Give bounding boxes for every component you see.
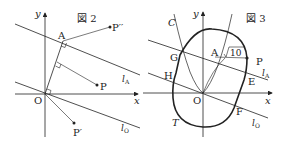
point-P [245, 56, 248, 59]
segment-AP2 [63, 27, 110, 41]
x-axis-label: x [134, 95, 140, 106]
label-O: O [34, 95, 42, 106]
label-C: C [168, 17, 176, 28]
x-axis-label: x [265, 95, 271, 106]
label-P: P [100, 81, 107, 92]
label-O: O [193, 95, 201, 106]
line-lA-label: lA [262, 68, 270, 79]
right-angle-mid [56, 64, 62, 68]
y-axis-label: y [192, 8, 199, 19]
point-P1 [73, 122, 76, 125]
svg-text:10: 10 [230, 48, 242, 58]
y-axis-label: y [34, 8, 41, 19]
label-T: T [172, 117, 180, 128]
label-G: G [170, 52, 178, 63]
label-H: H [164, 70, 173, 81]
line-lO-label: lO [252, 118, 260, 129]
label-F: F [236, 106, 243, 117]
segment-OA [45, 41, 63, 94]
figure-3: x y 図 3 lA lO 10 C T G H A P E F O [143, 8, 272, 137]
line-lA-label: lA [122, 74, 130, 85]
figure-2: x y 図 2 lA lO A P′′ P P′ O [15, 8, 140, 138]
label-P2: P′′ [112, 22, 124, 33]
figure-2-title: 図 2 [77, 13, 97, 24]
point-P [96, 84, 99, 87]
line-lO-label: lO [121, 123, 129, 134]
label-P: P [256, 56, 263, 67]
label-E: E [248, 76, 255, 87]
sqrt-10-label: 10 [224, 47, 245, 58]
label-A: A [210, 47, 219, 58]
figure-3-title: 図 3 [246, 13, 266, 24]
label-P1: P′ [73, 127, 83, 138]
segment-perp-P [57, 62, 97, 85]
label-A: A [57, 30, 66, 41]
figures-canvas: x y 図 2 lA lO A P′′ P P′ O x y 図 3 [0, 0, 281, 147]
